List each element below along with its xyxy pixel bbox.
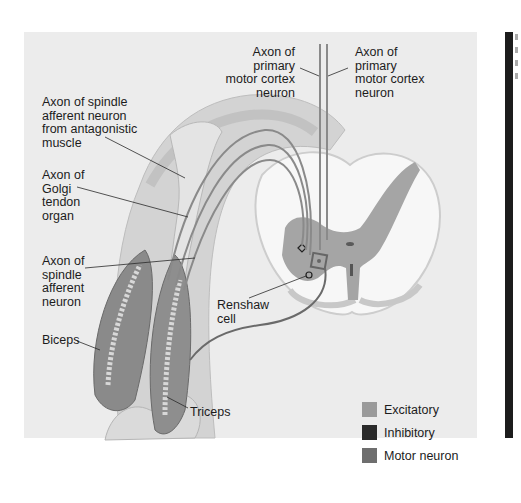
label-motor-cortex-right: Axon of primary motor cortex neuron [355,46,424,100]
label-renshaw-cell: Renshaw cell [217,299,269,326]
legend-swatch-excitatory [362,402,377,417]
legend: Excitatory Inhibitory Motor neuron [362,398,458,467]
spinal-cord-cross-section [255,152,440,314]
label-spindle-afferent: Axon of spindle afferent neuron [42,255,84,309]
label-triceps: Triceps [190,406,231,420]
legend-item-excitatory: Excitatory [362,398,458,421]
legend-swatch-inhibitory [362,425,377,440]
legend-label-inhibitory: Inhibitory [384,426,435,440]
legend-item-motor-neuron: Motor neuron [362,444,458,467]
label-golgi-tendon-axon: Axon of Golgi tendon organ [42,169,84,223]
label-motor-cortex-left: Axon of primary motor cortex neuron [225,46,295,100]
legend-label-excitatory: Excitatory [384,403,439,417]
legend-swatch-motor-neuron [362,448,377,463]
legend-item-inhibitory: Inhibitory [362,421,458,444]
label-biceps: Biceps [42,334,80,348]
label-spindle-afferent-antagonistic: Axon of spindle afferent neuron from ant… [42,96,137,150]
legend-label-motor-neuron: Motor neuron [384,449,458,463]
